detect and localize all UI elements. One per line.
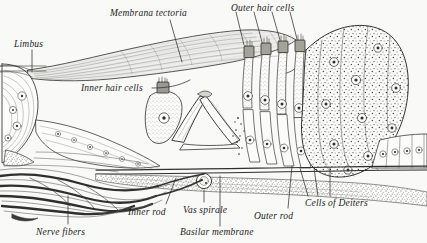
label-outer-hair-cells: Outer hair cells [231,4,294,14]
label-vas-spirale: Vas spirale [183,206,227,216]
outer-hair-cell [243,40,254,108]
label-nerve-fibers: Nerve fibers [36,228,85,238]
label-basilar-membrane: Basilar membrane [180,228,254,238]
anatomical-plate: Limbus Membrana tectoria Outer hair cell… [0,0,427,243]
limbus-spiralis-structure [2,64,38,166]
cells-of-deiters-structure [232,110,311,168]
label-inner-hair-cells: Inner hair cells [81,84,143,94]
label-inner-rod: Inner rod [128,208,166,218]
outer-rod-of-corti [200,96,240,144]
label-cells-of-deiters: Cells of Deiters [305,199,368,209]
tunnel-of-corti-structure [172,91,240,150]
label-limbus: Limbus [14,40,43,50]
leader-ohc-4 [290,12,297,39]
inner-sulcus-epithelium [36,120,160,169]
outer-hair-cell [260,37,271,110]
label-outer-rod: Outer rod [254,212,293,222]
membrana-tectoria-structure [28,30,301,81]
label-membrana-tectoria: Membrana tectoria [110,9,187,19]
outer-hair-cell [277,35,288,114]
